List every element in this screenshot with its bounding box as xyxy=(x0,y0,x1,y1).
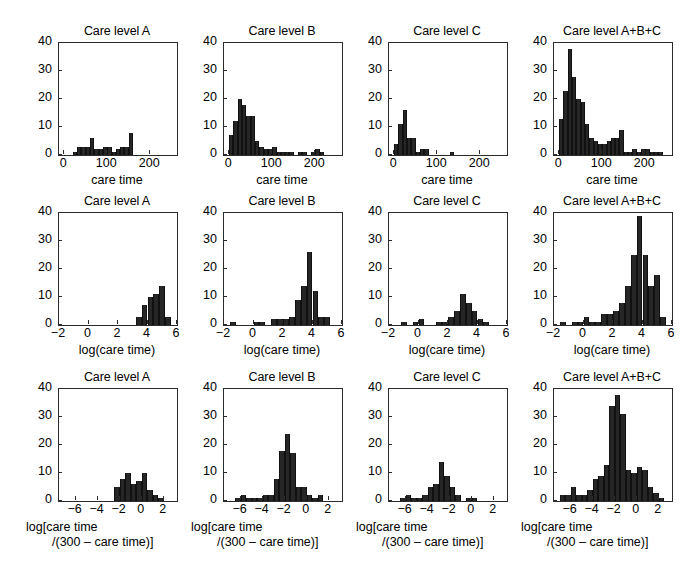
y-tick-mark xyxy=(388,296,392,297)
x-tick-label: 2 xyxy=(473,503,513,516)
x-axis-label-line1: log[care time xyxy=(521,520,593,534)
y-tick-label: 20 xyxy=(352,91,382,104)
x-tick-mark xyxy=(312,320,313,324)
x-tick-label: 200 xyxy=(294,157,334,170)
histogram-bars xyxy=(554,389,672,501)
y-tick-mark xyxy=(553,500,557,501)
x-axis-label-line2: /(300 – care time)] xyxy=(356,535,538,550)
y-tick-mark xyxy=(58,154,62,155)
y-tick-mark xyxy=(223,500,227,501)
y-tick-mark xyxy=(553,126,557,127)
histogram-bar xyxy=(660,317,666,325)
y-tick-label: 10 xyxy=(187,119,217,132)
x-tick-mark xyxy=(163,496,164,500)
x-tick-mark xyxy=(477,320,478,324)
x-tick-mark xyxy=(228,150,229,154)
panel-title: Care level A xyxy=(58,370,176,384)
y-tick-label: 40 xyxy=(352,205,382,218)
y-tick-mark xyxy=(223,240,227,241)
x-tick-mark xyxy=(642,320,643,324)
x-tick-label: 200 xyxy=(459,157,499,170)
x-axis-label-line1: log[care time xyxy=(26,520,98,534)
x-tick-mark xyxy=(405,496,406,500)
plot-area xyxy=(388,388,508,502)
y-tick-label: 10 xyxy=(187,465,217,478)
y-tick-label: 40 xyxy=(517,35,547,48)
x-axis-label: log[care time/(300 – care time)] xyxy=(521,520,685,550)
y-tick-mark xyxy=(553,416,557,417)
x-tick-label: 200 xyxy=(624,157,664,170)
y-tick-label: 30 xyxy=(352,409,382,422)
x-tick-label: 2 xyxy=(143,503,183,516)
histogram-bars xyxy=(554,43,672,155)
histogram-bar xyxy=(289,152,293,155)
x-tick-mark xyxy=(117,320,118,324)
y-tick-label: 40 xyxy=(22,205,52,218)
x-axis-label: log[care time/(300 – care time)] xyxy=(191,520,373,550)
plot-area xyxy=(58,212,178,326)
plot-area xyxy=(388,42,508,156)
x-axis-label: log(care time) xyxy=(368,343,526,357)
x-tick-mark xyxy=(106,150,107,154)
y-tick-mark xyxy=(553,388,557,389)
y-tick-label: 10 xyxy=(22,289,52,302)
x-axis-label: log(care time) xyxy=(38,343,196,357)
y-tick-mark xyxy=(388,70,392,71)
y-tick-mark xyxy=(553,268,557,269)
y-tick-label: 20 xyxy=(187,91,217,104)
x-axis-label: log[care time/(300 – care time)] xyxy=(356,520,538,550)
x-tick-mark xyxy=(58,320,59,324)
x-axis-label: log[care time/(300 – care time)] xyxy=(26,520,208,550)
x-tick-mark xyxy=(601,150,602,154)
histogram-bar xyxy=(472,498,478,501)
x-tick-mark xyxy=(88,320,89,324)
panel-title: Care level A+B+C xyxy=(553,24,671,38)
y-tick-mark xyxy=(58,324,62,325)
y-tick-mark xyxy=(553,472,557,473)
x-tick-mark xyxy=(612,320,613,324)
histogram-bars xyxy=(224,213,342,325)
y-tick-mark xyxy=(553,324,557,325)
histogram-bar xyxy=(230,322,236,325)
y-tick-label: 20 xyxy=(187,437,217,450)
y-tick-mark xyxy=(388,240,392,241)
y-tick-mark xyxy=(388,212,392,213)
x-axis-label: log(care time) xyxy=(533,343,685,357)
plot-area xyxy=(58,388,178,502)
x-tick-label: 100 xyxy=(581,157,621,170)
histogram-bar xyxy=(165,317,171,325)
y-tick-label: 40 xyxy=(187,205,217,218)
y-tick-mark xyxy=(388,388,392,389)
y-tick-label: 30 xyxy=(22,233,52,246)
panel-title: Care level B xyxy=(223,370,341,384)
x-axis-label: log(care time) xyxy=(203,343,361,357)
x-axis-label-line2: /(300 – care time)] xyxy=(521,535,685,550)
x-tick-mark xyxy=(306,496,307,500)
y-tick-label: 20 xyxy=(22,261,52,274)
y-tick-label: 40 xyxy=(22,35,52,48)
y-tick-mark xyxy=(223,212,227,213)
y-tick-mark xyxy=(58,268,62,269)
histogram-bar xyxy=(560,322,566,325)
y-tick-label: 30 xyxy=(22,63,52,76)
x-tick-label: 0 xyxy=(538,157,578,170)
x-tick-label: 0 xyxy=(373,157,413,170)
x-tick-label: 0 xyxy=(208,157,248,170)
y-tick-label: 20 xyxy=(22,437,52,450)
y-tick-mark xyxy=(388,416,392,417)
y-tick-label: 40 xyxy=(352,381,382,394)
histogram-bar xyxy=(455,495,461,501)
histogram-bar xyxy=(324,317,330,325)
y-tick-label: 20 xyxy=(22,91,52,104)
y-tick-label: 30 xyxy=(352,233,382,246)
histogram-bars xyxy=(224,389,342,501)
plot-area xyxy=(223,388,343,502)
y-tick-mark xyxy=(58,296,62,297)
x-tick-label: 0 xyxy=(43,157,83,170)
histogram-bar xyxy=(424,149,428,155)
histogram-bars xyxy=(59,389,177,501)
y-tick-label: 30 xyxy=(517,409,547,422)
y-tick-label: 10 xyxy=(352,289,382,302)
y-tick-label: 40 xyxy=(517,205,547,218)
x-tick-mark xyxy=(97,496,98,500)
